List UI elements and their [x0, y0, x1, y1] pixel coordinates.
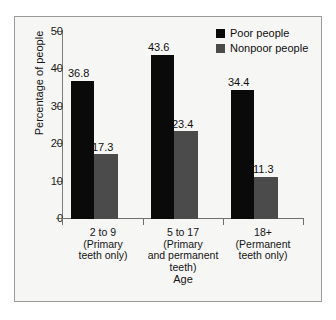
y-tick-label-50: 50 [27, 26, 63, 37]
y-tick-group-40: 40 [15, 68, 63, 69]
value-label-nonpoor-2-to-9: 17.3 [92, 142, 113, 153]
bar-poor-18-plus [231, 90, 254, 219]
x-tick-mark-2 [223, 219, 224, 225]
y-tick-group-50: 50 [15, 31, 63, 32]
y-tick-group-0: 0 [15, 218, 63, 219]
bar-chart-figure: Poor people Nonpoor people Percentage of… [0, 0, 336, 320]
value-label-poor-18-plus: 34.4 [228, 77, 249, 88]
value-label-poor-5-to-17: 43.6 [148, 42, 169, 53]
y-tick-group-10: 10 [15, 181, 63, 182]
chart-frame: Poor people Nonpoor people Percentage of… [14, 16, 322, 302]
bar-nonpoor-5-to-17 [174, 131, 198, 219]
value-label-nonpoor-5-to-17: 23.4 [172, 119, 193, 130]
y-tick-group-20: 20 [15, 143, 63, 144]
value-label-nonpoor-18-plus: 11.3 [253, 164, 274, 175]
bar-nonpoor-18-plus [254, 177, 278, 220]
x-category-label-18-plus: 18+ (Permanent teeth only) [215, 227, 311, 262]
y-tick-label-10: 10 [27, 176, 63, 187]
bar-nonpoor-2-to-9 [94, 154, 118, 219]
y-tick-label-20: 20 [27, 138, 63, 149]
x-tick-mark-0 [62, 219, 63, 225]
y-tick-label-30: 30 [27, 101, 63, 112]
y-tick-group-30: 30 [15, 106, 63, 107]
x-tick-mark-3 [303, 219, 304, 225]
x-axis-title: Age [62, 273, 304, 285]
y-tick-label-0: 0 [27, 213, 63, 224]
x-tick-mark-1 [143, 219, 144, 225]
value-label-poor-2-to-9: 36.8 [68, 68, 89, 79]
bar-poor-2-to-9 [71, 81, 94, 219]
bar-poor-5-to-17 [151, 55, 174, 219]
y-tick-label-40: 40 [27, 63, 63, 74]
